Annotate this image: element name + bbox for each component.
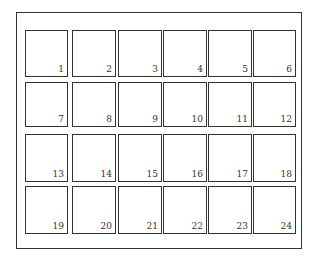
box-number-label: 3: [152, 65, 158, 74]
box-number-label: 4: [197, 65, 203, 74]
numbered-box: 12: [253, 82, 296, 127]
numbered-box: 16: [163, 134, 207, 182]
box-number-label: 14: [101, 170, 112, 179]
numbered-box: 19: [25, 186, 68, 234]
box-number-label: 13: [53, 170, 64, 179]
numbered-box: 21: [118, 186, 162, 234]
box-number-label: 21: [147, 222, 158, 231]
box-number-label: 1: [58, 65, 64, 74]
box-number-label: 8: [106, 115, 112, 124]
box-number-label: 16: [192, 170, 203, 179]
box-number-label: 20: [101, 222, 112, 231]
numbered-box: 13: [25, 134, 68, 182]
box-number-label: 24: [281, 222, 292, 231]
numbered-box: 15: [118, 134, 162, 182]
box-number-label: 18: [281, 170, 292, 179]
box-number-label: 2: [106, 65, 112, 74]
box-number-label: 22: [192, 222, 203, 231]
numbered-box: 1: [25, 30, 68, 77]
numbered-box: 4: [163, 30, 207, 77]
numbered-box: 7: [25, 82, 68, 127]
numbered-box: 24: [253, 186, 296, 234]
numbered-box: 14: [72, 134, 116, 182]
numbered-box: 20: [72, 186, 116, 234]
box-number-label: 6: [286, 65, 292, 74]
box-number-label: 23: [237, 222, 248, 231]
numbered-box: 17: [208, 134, 252, 182]
box-number-label: 5: [242, 65, 248, 74]
numbered-box: 5: [208, 30, 252, 77]
numbered-box: 8: [72, 82, 116, 127]
box-number-label: 17: [237, 170, 248, 179]
numbered-box: 2: [72, 30, 116, 77]
numbered-box: 18: [253, 134, 296, 182]
numbered-box: 3: [118, 30, 162, 77]
box-number-label: 15: [147, 170, 158, 179]
box-number-label: 11: [237, 115, 248, 124]
box-number-label: 19: [53, 222, 64, 231]
box-number-label: 9: [152, 115, 158, 124]
box-number-label: 10: [192, 115, 203, 124]
numbered-box: 22: [163, 186, 207, 234]
box-number-label: 12: [281, 115, 292, 124]
numbered-box: 10: [163, 82, 207, 127]
numbered-box: 23: [208, 186, 252, 234]
numbered-box: 11: [208, 82, 252, 127]
numbered-box: 9: [118, 82, 162, 127]
box-number-label: 7: [58, 115, 64, 124]
numbered-box: 6: [253, 30, 296, 77]
